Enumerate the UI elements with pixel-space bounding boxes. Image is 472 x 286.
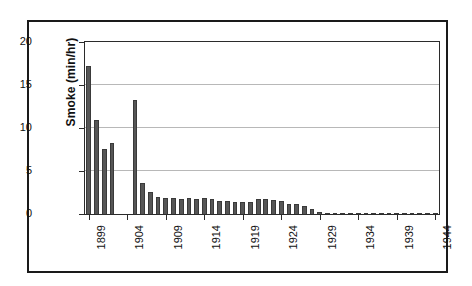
bar	[433, 213, 438, 214]
bar	[394, 213, 399, 214]
bar	[256, 199, 261, 214]
x-axis-tick-label: 1909	[172, 225, 184, 271]
bar	[102, 149, 107, 214]
bar	[387, 213, 392, 214]
x-axis-tick-label: 1929	[326, 225, 338, 271]
bar	[140, 183, 145, 214]
bar	[302, 206, 307, 214]
chart-figure-frame: Smoke (min/hr) 05101520 1899190419091914…	[27, 20, 448, 273]
bar	[325, 213, 330, 214]
bar	[271, 200, 276, 214]
bar	[156, 197, 161, 214]
bar	[402, 213, 407, 214]
bar	[279, 201, 284, 214]
x-axis-tick-mark	[435, 215, 436, 220]
x-axis-tick-label: 1924	[287, 225, 299, 271]
x-axis-tick-label: 1934	[364, 225, 376, 271]
x-axis-tick-mark	[281, 215, 282, 220]
x-axis-tick-label: 1899	[95, 225, 107, 271]
bar	[163, 198, 168, 214]
x-axis-tick-mark	[89, 215, 90, 220]
x-axis-tick-mark	[358, 215, 359, 220]
bar	[333, 213, 338, 214]
bar	[356, 213, 361, 214]
bar	[294, 204, 299, 214]
bar	[425, 213, 430, 214]
bar	[317, 212, 322, 214]
bar	[287, 204, 292, 214]
x-axis-tick-mark	[320, 215, 321, 220]
y-axis-tick-label: 0	[6, 207, 32, 219]
x-axis-tick-label: 1919	[249, 225, 261, 271]
bar	[410, 213, 415, 214]
y-axis-tick-label: 20	[6, 35, 32, 47]
bar	[371, 213, 376, 214]
x-axis-tick-mark	[127, 215, 128, 220]
bar	[210, 199, 215, 214]
bar	[364, 213, 369, 214]
bar	[340, 213, 345, 214]
bar	[225, 201, 230, 214]
bar	[310, 209, 315, 214]
bar	[348, 213, 353, 214]
x-axis-tick-mark	[204, 215, 205, 220]
bar	[379, 213, 384, 214]
y-axis-tick-label: 5	[6, 164, 32, 176]
bar-series	[85, 42, 439, 214]
bar	[133, 100, 138, 214]
bar	[94, 120, 99, 214]
x-axis: 1899190419091914191919241929193419391944	[85, 215, 439, 275]
x-axis-tick-label: 1944	[441, 225, 453, 271]
bar	[240, 202, 245, 214]
bar	[202, 198, 207, 214]
x-axis-tick-label: 1939	[403, 225, 415, 271]
bar	[187, 198, 192, 214]
bar	[217, 201, 222, 214]
bar	[263, 199, 268, 214]
bar	[233, 202, 238, 214]
y-axis-tick-label: 10	[6, 121, 32, 133]
bar	[417, 213, 422, 214]
x-axis-tick-label: 1904	[133, 225, 145, 271]
x-axis-tick-mark	[243, 215, 244, 220]
bar	[86, 66, 91, 214]
bar	[179, 199, 184, 214]
bar	[110, 143, 115, 214]
x-axis-tick-label: 1914	[210, 225, 222, 271]
bar	[248, 202, 253, 214]
bar	[148, 192, 153, 214]
bar	[194, 199, 199, 214]
x-axis-tick-mark	[166, 215, 167, 220]
x-axis-tick-mark	[397, 215, 398, 220]
y-axis-title: Smoke (min/hr)	[64, 17, 80, 147]
y-axis-tick-label: 15	[6, 78, 32, 90]
bar	[171, 198, 176, 214]
